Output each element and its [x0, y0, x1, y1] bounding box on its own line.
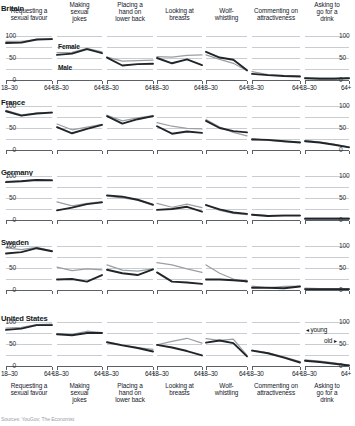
series-lines: [206, 36, 247, 80]
y-tick-label-right-0: 0: [339, 286, 355, 293]
x-axis-line: [206, 366, 247, 367]
series-lines: [107, 176, 153, 220]
series-lines: [252, 176, 300, 220]
panel-sweden-2: [107, 246, 153, 290]
x-tick: [206, 151, 207, 154]
line-male: [107, 195, 153, 204]
series-lines: [157, 36, 202, 80]
x-axis-line: [107, 366, 153, 367]
x-tick-label-young: 18–30: [152, 84, 169, 91]
x-tick: [247, 221, 248, 224]
panel-sweden-4: [206, 246, 247, 290]
panel-germany-1: [57, 176, 102, 220]
y-tick-label-left-100: 100: [0, 242, 16, 249]
series-lines: [252, 246, 300, 290]
x-tick: [52, 151, 53, 154]
y-tick-label-right-100: 100: [339, 102, 355, 109]
line-male: [6, 180, 52, 182]
y-tick-label-left-0: 0: [0, 146, 16, 153]
x-tick-label-young: 18–30: [201, 370, 218, 377]
annotation-young: ◂ young: [306, 326, 327, 334]
line-female: [57, 267, 102, 271]
x-axis-line: [206, 150, 247, 151]
series-lines: [157, 106, 202, 150]
column-header-6: Asking togo for adrink: [296, 1, 355, 23]
x-tick-label-young: 18–30: [1, 84, 18, 91]
series-lines: [206, 246, 247, 290]
line-female: [157, 123, 202, 129]
series-lines: [252, 106, 300, 150]
series-lines: [252, 322, 300, 366]
x-tick: [206, 291, 207, 294]
series-lines: [57, 106, 102, 150]
x-axis-line: [252, 290, 300, 291]
y-tick-label-right-0: 0: [339, 216, 355, 223]
line-male: [57, 275, 102, 282]
panel-britain-2: [107, 36, 153, 80]
panel-sweden-3: [157, 246, 202, 290]
y-tick-label-right-50: 50: [339, 194, 355, 201]
y-tick-label-right-0: 0: [339, 362, 355, 369]
series-lines: [57, 176, 102, 220]
line-male: [157, 345, 202, 356]
x-axis-line: [57, 150, 102, 151]
panel-sweden-1: [57, 246, 102, 290]
series-lines: [206, 106, 247, 150]
line-female: [206, 55, 247, 71]
line-female: [206, 120, 247, 136]
panel-france-3: [157, 106, 202, 150]
line-male: [157, 207, 202, 212]
x-tick: [102, 221, 103, 224]
x-tick: [202, 221, 203, 224]
x-tick: [57, 151, 58, 154]
series-lines: [157, 176, 202, 220]
y-tick-label-right-100: 100: [339, 32, 355, 39]
line-male: [157, 58, 202, 65]
line-male: [206, 279, 247, 281]
line-female: [157, 263, 202, 273]
x-tick-label-young: 18–30: [247, 370, 264, 377]
x-tick: [57, 291, 58, 294]
x-axis-line: [57, 290, 102, 291]
x-axis-line: [206, 290, 247, 291]
y-tick-label-right-100: 100: [339, 172, 355, 179]
series-lines: [57, 246, 102, 290]
x-tick: [305, 151, 306, 154]
x-tick: [247, 291, 248, 294]
y-tick-label-right-100: 100: [339, 318, 355, 325]
panel-france-5: [252, 106, 300, 150]
panel-united-states-2: [107, 322, 153, 366]
y-tick-label-left-100: 100: [0, 172, 16, 179]
y-tick-label-left-50: 50: [0, 54, 16, 61]
x-tick: [153, 221, 154, 224]
x-tick: [107, 151, 108, 154]
series-lines: [57, 322, 102, 366]
x-axis-line: [107, 150, 153, 151]
x-axis-line: [157, 366, 202, 367]
x-tick: [107, 291, 108, 294]
panel-britain-5: [252, 36, 300, 80]
x-tick: [107, 221, 108, 224]
line-male: [107, 342, 153, 351]
line-male: [157, 272, 202, 283]
y-tick-label-left-0: 0: [0, 216, 16, 223]
x-tick: [300, 291, 301, 294]
panel-germany-3: [157, 176, 202, 220]
y-tick-label-right-50: 50: [339, 54, 355, 61]
x-tick: [57, 221, 58, 224]
series-lines: [107, 246, 153, 290]
y-tick-label-left-50: 50: [0, 194, 16, 201]
column-headers: Requesting asexual favourMakingsexualjok…: [0, 0, 355, 30]
y-tick-label-left-0: 0: [0, 362, 16, 369]
x-tick-label-young: 18–30: [52, 370, 69, 377]
panel-united-states-3: [157, 322, 202, 366]
series-lines: [107, 36, 153, 80]
panel-britain-4: [206, 36, 247, 80]
panel-sweden-5: [252, 246, 300, 290]
x-axis-line: [157, 290, 202, 291]
x-tick-label-young: 18–30: [102, 84, 119, 91]
x-axis-line: [252, 366, 300, 367]
series-lines: [206, 176, 247, 220]
series-lines: [157, 246, 202, 290]
series-lines: [107, 106, 153, 150]
